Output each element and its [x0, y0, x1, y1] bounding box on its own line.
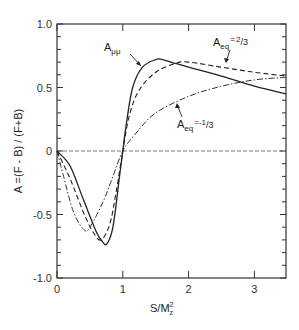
svg-text:Aμμ: Aμμ [104, 41, 121, 56]
annotation-aeq-two-thirds: Aeq=2/3 [213, 35, 248, 63]
annotation-aeq-minus-one-third: Aeq=-1/3 [175, 103, 214, 133]
series-a-mumu-solid-curve [57, 59, 286, 245]
asymmetry-chart: 1.00.50-0.5-1.0 0123 Aμμ Aeq=2/3 Aeq=-1/… [0, 0, 299, 330]
y-axis-tick-labels: 1.00.50-0.5-1.0 [33, 18, 52, 284]
svg-text:Aeq=-1/3: Aeq=-1/3 [177, 118, 214, 133]
series-aeq-minus-one-third-dashdot-curve [57, 77, 286, 231]
y-tick-label: 1.0 [37, 18, 52, 30]
y-axis-label: A =(F - B) / (F+B) [12, 109, 24, 193]
y-tick-label: -0.5 [33, 209, 52, 221]
x-axis-label: S/M2z [150, 301, 174, 316]
svg-text:Aeq=2/3: Aeq=2/3 [213, 35, 248, 51]
y-tick-label: -1.0 [33, 272, 52, 284]
y-tick-label: 0.5 [37, 82, 52, 94]
x-tick-label: 0 [54, 283, 60, 295]
x-tick-label: 3 [251, 283, 257, 295]
x-axis-tick-labels: 0123 [54, 283, 258, 295]
x-tick-label: 1 [120, 283, 126, 295]
x-tick-label: 2 [186, 283, 192, 295]
y-tick-label: 0 [46, 145, 52, 157]
annotation-a-mumu: Aμμ [104, 41, 141, 66]
